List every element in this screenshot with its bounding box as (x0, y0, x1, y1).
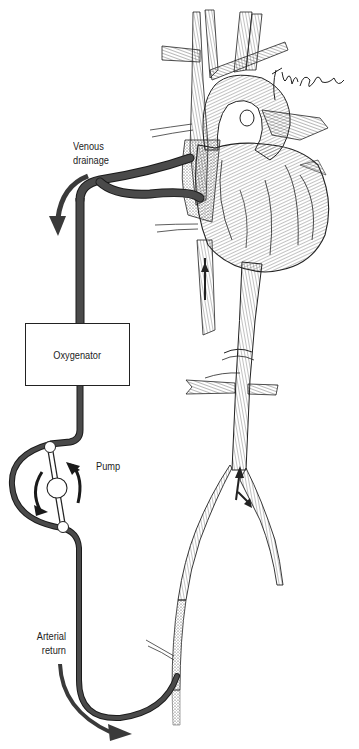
pump-label: Pump (96, 459, 120, 473)
arterial-return-label: Arterial return (36, 629, 66, 657)
pump-rotation-arrow-left (35, 472, 42, 510)
arterial-label-line1: Arterial (36, 629, 66, 643)
inferior-vena-cava (197, 240, 215, 335)
roller-pump (34, 442, 80, 533)
venous-label-line2: drainage (73, 153, 109, 167)
arterial-label-line2: return (36, 643, 66, 657)
oxygenator-label: Oxygenator (54, 349, 102, 361)
oxygenator-box: Oxygenator (25, 323, 130, 386)
venous-label-line1: Venous (73, 139, 109, 153)
descending-aorta (146, 262, 283, 725)
venous-drainage-label: Venous drainage (73, 139, 109, 167)
bypass-diagram: Venous drainage Oxygenator Pump Arterial… (0, 0, 359, 749)
